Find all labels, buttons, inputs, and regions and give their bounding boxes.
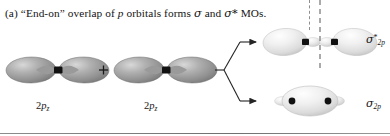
antibonding-sigma-glyph: σ bbox=[366, 33, 374, 46]
orbital-overlap-figure: (a) “End-on” overlap of p orbitals forms… bbox=[0, 0, 390, 136]
antibonding-right-nucleus bbox=[331, 39, 338, 45]
bonding-mo-group bbox=[275, 86, 345, 116]
left-orbital-label: 2pz bbox=[36, 100, 49, 113]
bonding-left-nucleus bbox=[289, 98, 296, 105]
left-p-orbital bbox=[6, 57, 109, 84]
antibonding-subscript: 2p bbox=[378, 38, 385, 47]
right-orbital-nucleus bbox=[162, 67, 171, 74]
fork-lower-branch bbox=[224, 70, 240, 101]
antibonding-left-nucleus bbox=[302, 39, 309, 45]
reaction-arrows-group bbox=[215, 42, 256, 101]
left-orbital-nucleus bbox=[54, 67, 63, 74]
antibonding-mo-label: σ*2p bbox=[366, 33, 385, 47]
antibonding-mo-group bbox=[262, 0, 378, 72]
bonding-sigma-glyph: σ bbox=[366, 97, 374, 110]
right-orbital-label: 2pz bbox=[144, 100, 157, 113]
bonding-right-nucleus bbox=[325, 98, 332, 105]
figure-bottom-rule bbox=[0, 133, 390, 134]
orbital-diagram-svg bbox=[0, 0, 390, 136]
antibonding-left-large-lobe bbox=[262, 27, 308, 57]
right-p-orbital bbox=[114, 57, 217, 84]
bonding-subscript: 2p bbox=[374, 102, 381, 111]
fork-upper-branch bbox=[224, 42, 240, 70]
bonding-mo-label: σ2p bbox=[366, 97, 381, 111]
